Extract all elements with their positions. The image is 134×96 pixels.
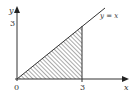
line-equation-label: y = x xyxy=(99,12,118,20)
y-axis-label: y xyxy=(8,6,14,15)
origin-label: 0 xyxy=(14,83,19,92)
y-tick-label: 3 xyxy=(10,19,15,28)
x-axis-arrow-icon xyxy=(122,76,129,82)
y-axis-arrow-icon xyxy=(14,6,20,13)
diagram-canvas: y 3 0 3 x y = x xyxy=(0,0,134,96)
x-tick-label: 3 xyxy=(80,83,85,92)
x-axis-label: x xyxy=(124,83,129,92)
